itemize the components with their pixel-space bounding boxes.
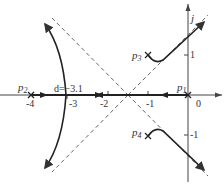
pole-label-p2: p2: [18, 82, 28, 95]
pole-label-p4: p4: [132, 127, 142, 140]
pole-p3-icon: [145, 52, 151, 58]
tick-label-neg4: -4: [26, 99, 34, 109]
tick-label-neg1-imag: -1: [190, 130, 198, 140]
tick-label-pos1: 1: [190, 50, 195, 60]
tick-label-neg3: -3: [69, 99, 77, 109]
tick-label-neg1: -1: [146, 99, 154, 109]
pole-p4-icon: [145, 133, 151, 139]
tick-label-neg2: -2: [100, 99, 108, 109]
breakaway-label: d=−3.1: [54, 84, 83, 94]
pole-label-p3: p3: [132, 50, 142, 63]
root-locus-diagram: [0, 0, 224, 187]
tick-label-zero: 0: [196, 99, 201, 109]
imag-axis-label: j: [191, 13, 194, 24]
branch-p3: [148, 22, 204, 62]
pole-label-p1: p1: [177, 82, 187, 95]
